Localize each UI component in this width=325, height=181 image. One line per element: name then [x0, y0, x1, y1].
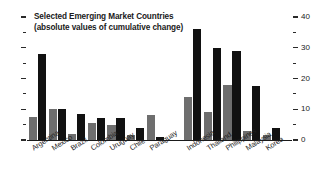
bar-argentina-gray	[29, 117, 37, 140]
bar-thailand-black	[213, 48, 221, 140]
bar-indonesia-black	[193, 29, 201, 140]
chart-screenshot: Selected Emerging Market Countries (abso…	[0, 0, 325, 181]
bars-layer	[0, 0, 325, 181]
bar-paraguay-gray	[147, 115, 155, 140]
bar-philippines-black	[232, 51, 240, 140]
bar-colombia-gray	[88, 123, 96, 140]
bar-indonesia-gray	[184, 97, 192, 140]
bar-argentina-black	[38, 54, 46, 140]
